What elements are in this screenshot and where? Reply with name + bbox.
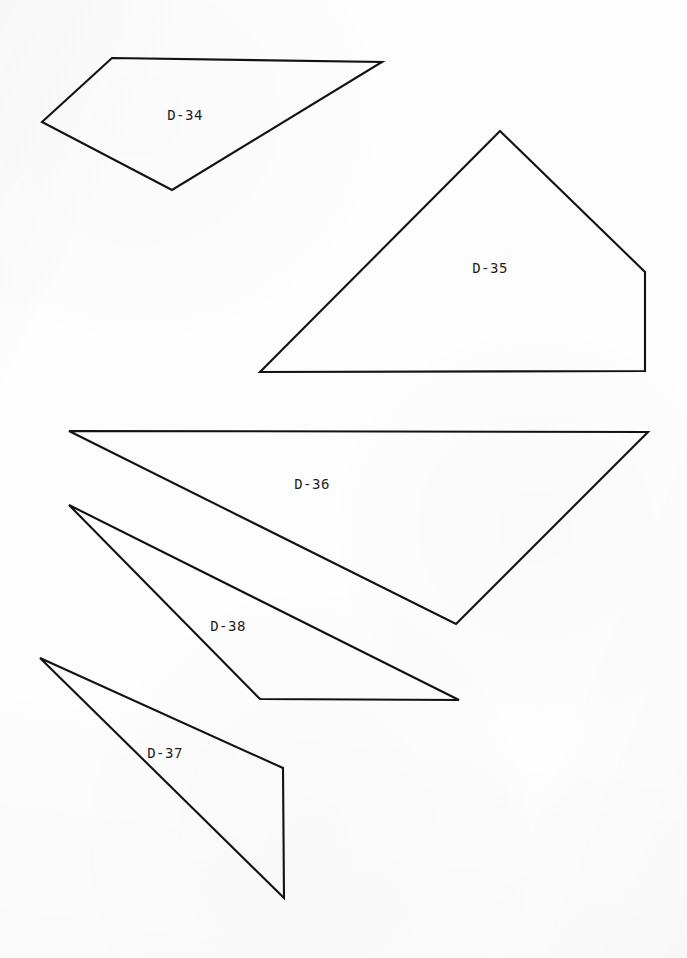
drawing-sheet: D-34 D-35 D-36 D-38 D-37 xyxy=(0,0,687,958)
shape-outline-d38[interactable] xyxy=(69,505,459,700)
shape-outline-d36[interactable] xyxy=(69,431,648,624)
shape-label-d34: D-34 xyxy=(167,107,203,123)
shape-label-d36: D-36 xyxy=(294,476,330,492)
shape-outline-d34[interactable] xyxy=(42,58,382,190)
shape-outline-d35[interactable] xyxy=(260,131,645,372)
shape-outline-d37[interactable] xyxy=(40,658,284,898)
shape-label-d35: D-35 xyxy=(472,260,508,276)
shape-label-d38: D-38 xyxy=(210,618,246,634)
shape-figure-layer xyxy=(0,0,687,958)
shape-label-d37: D-37 xyxy=(147,745,183,761)
